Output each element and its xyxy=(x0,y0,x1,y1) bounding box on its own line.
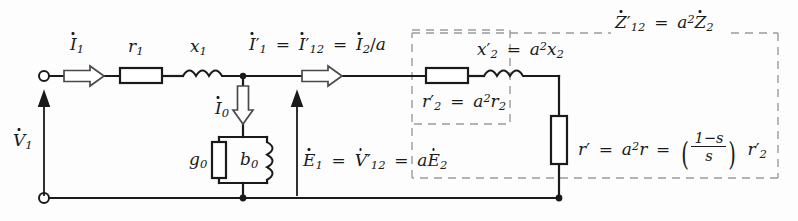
i1-current-arrow xyxy=(64,66,104,86)
label-mechanical-resistance: r′ = a2r = (1−ss) r′2 xyxy=(578,130,767,170)
circuit-diagram-canvas: .w { stroke:#1a1a1a; stroke-width:2.2; f… xyxy=(0,0,798,221)
label-input-voltage: V1 xyxy=(13,132,33,152)
i1prime-current-arrow xyxy=(302,66,342,86)
x1-inductor xyxy=(183,71,222,77)
label-r2-prime: r′2 = a2r2 xyxy=(422,93,506,113)
label-input-current: I1 xyxy=(70,36,84,56)
input-terminal-top xyxy=(39,71,49,81)
e1-voltage-arrow xyxy=(292,92,302,196)
label-b0: b0 xyxy=(240,151,258,171)
node-rotor-bottom xyxy=(556,195,563,202)
v1-voltage-arrow xyxy=(39,92,49,196)
rprime-resistor xyxy=(551,116,567,164)
label-x2-prime: x′2 = a2x2 xyxy=(477,41,564,61)
x2prime-inductor xyxy=(484,71,523,77)
r2prime-resistor xyxy=(426,68,468,83)
label-emf-relation: E1 = V′12 = aE2 xyxy=(303,152,447,172)
label-g0: g0 xyxy=(189,151,207,171)
label-x1: x1 xyxy=(190,38,207,58)
r1-resistor xyxy=(120,68,162,83)
g0-conductance xyxy=(212,142,226,178)
label-referred-impedance: Z′12 = a2Z2 xyxy=(615,14,714,34)
i0-current-arrow xyxy=(233,86,253,124)
label-r1: r1 xyxy=(128,38,144,58)
b0-susceptance xyxy=(267,142,273,180)
label-magnetizing-current: I0 xyxy=(215,100,229,120)
label-referred-current: I′1 = I′12 = I2/a xyxy=(249,36,386,56)
